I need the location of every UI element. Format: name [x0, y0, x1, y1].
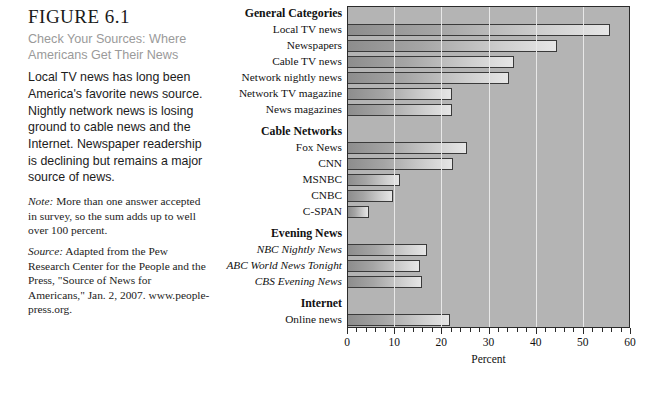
bar[interactable]	[347, 40, 557, 52]
bar[interactable]	[347, 244, 427, 256]
bar[interactable]	[347, 24, 610, 36]
group-row: General Categories	[212, 6, 630, 22]
plot-cell	[347, 102, 630, 118]
x-tick-label: 10	[388, 336, 400, 348]
note-label: Note:	[28, 195, 53, 207]
figure-number: FIGURE 6.1	[28, 6, 210, 28]
plot-cell	[347, 140, 630, 156]
caption-column: FIGURE 6.1 Check Your Sources: Where Ame…	[28, 6, 210, 323]
bar-row: ABC World News Tonight	[212, 258, 630, 274]
x-tick-minor	[602, 328, 603, 332]
x-tick-minor	[404, 328, 405, 332]
plot-cell	[347, 242, 630, 258]
group-row: Internet	[212, 296, 630, 312]
bar[interactable]	[347, 174, 400, 186]
x-tick-major	[536, 328, 537, 334]
bar-row: Cable TV news	[212, 54, 630, 70]
plot-cell	[347, 6, 630, 22]
plot-cell	[347, 258, 630, 274]
x-tick-major	[489, 328, 490, 334]
x-tick-minor	[573, 328, 574, 332]
x-tick-minor	[526, 328, 527, 332]
bar-label: NBC Nightly News	[212, 244, 347, 255]
bar-label: CNBC	[212, 190, 347, 201]
x-tick-minor	[479, 328, 480, 332]
plot-cell	[347, 86, 630, 102]
bar-row: Fox News	[212, 140, 630, 156]
figure-note: Note: More than one answer accepted in s…	[28, 194, 210, 238]
x-tick-minor	[470, 328, 471, 332]
bar-label: News magazines	[212, 104, 347, 115]
plot-cell	[347, 22, 630, 38]
x-tick-label: 30	[483, 336, 495, 348]
x-tick-major	[394, 328, 395, 334]
x-tick-minor	[385, 328, 386, 332]
bar[interactable]	[347, 104, 452, 116]
plot-cell	[347, 226, 630, 242]
bar-row: Online news	[212, 312, 630, 328]
bar-row: Newspapers	[212, 38, 630, 54]
bar[interactable]	[347, 190, 393, 202]
note-text: More than one answer accepted in survey,…	[28, 195, 200, 236]
x-tick-minor	[611, 328, 612, 332]
x-tick-label: 20	[436, 336, 448, 348]
bar-row: News magazines	[212, 102, 630, 118]
bar-row: Local TV news	[212, 22, 630, 38]
group-label: Evening News	[212, 228, 347, 240]
figure-subtitle: Check Your Sources: Where Americans Get …	[28, 31, 210, 64]
bar-row: NBC Nightly News	[212, 242, 630, 258]
group-label: General Categories	[212, 8, 347, 20]
x-axis: Percent 0102030405060	[347, 328, 630, 368]
x-tick-major	[441, 328, 442, 334]
plot-cell	[347, 38, 630, 54]
bar[interactable]	[347, 260, 420, 272]
x-tick-minor	[413, 328, 414, 332]
bar-label: Network nightly news	[212, 72, 347, 83]
x-tick-major	[583, 328, 584, 334]
bar[interactable]	[347, 88, 452, 100]
plot-cell	[347, 188, 630, 204]
x-tick-label: 60	[624, 336, 636, 348]
bar-label: Fox News	[212, 142, 347, 153]
bar[interactable]	[347, 206, 369, 218]
plot-cell	[347, 312, 630, 328]
bar[interactable]	[347, 276, 422, 288]
bar-label: Cable TV news	[212, 56, 347, 67]
bar[interactable]	[347, 56, 514, 68]
bar-row: CBS Evening News	[212, 274, 630, 290]
bar[interactable]	[347, 158, 453, 170]
plot-cell	[347, 124, 630, 140]
plot-cell	[347, 70, 630, 86]
x-tick-minor	[366, 328, 367, 332]
bar-label: MSNBC	[212, 174, 347, 185]
bar-row: CNBC	[212, 188, 630, 204]
x-tick-minor	[451, 328, 452, 332]
plot-cell	[347, 204, 630, 220]
x-tick-minor	[555, 328, 556, 332]
x-axis-title: Percent	[347, 353, 630, 365]
x-tick-minor	[517, 328, 518, 332]
bar-row: MSNBC	[212, 172, 630, 188]
chart-inner: General CategoriesLocal TV newsNewspaper…	[212, 6, 642, 391]
group-label: Cable Networks	[212, 126, 347, 138]
bar-label: CNN	[212, 158, 347, 169]
x-tick-minor	[592, 328, 593, 332]
x-tick-minor	[356, 328, 357, 332]
bar-row: CNN	[212, 156, 630, 172]
plot-cell	[347, 54, 630, 70]
chart-rows: General CategoriesLocal TV newsNewspaper…	[212, 6, 630, 328]
x-tick-major	[630, 328, 631, 334]
bar[interactable]	[347, 142, 467, 154]
bar[interactable]	[347, 314, 450, 326]
group-row: Cable Networks	[212, 124, 630, 140]
bar-label: ABC World News Tonight	[212, 260, 347, 271]
x-tick-minor	[545, 328, 546, 332]
x-tick-label: 50	[577, 336, 589, 348]
x-tick-minor	[375, 328, 376, 332]
bar-label: Local TV news	[212, 24, 347, 35]
x-tick-label: 40	[530, 336, 542, 348]
source-label: Source:	[28, 245, 63, 257]
bar-row: C-SPAN	[212, 204, 630, 220]
bar[interactable]	[347, 72, 509, 84]
bar-label: Online news	[212, 314, 347, 325]
